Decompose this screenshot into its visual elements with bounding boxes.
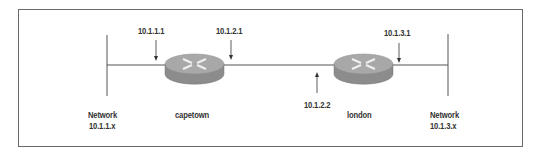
arrow-10-1-3-1-icon [397,43,401,63]
network-right-address: 10.1.3.x [430,121,456,132]
arrow-10-1-2-2-icon [315,72,319,93]
router-capetown-icon [165,54,224,84]
router-london-icon [334,54,393,84]
network-right-title: Network [430,110,459,121]
arrow-10-1-2-1-icon [229,40,233,60]
network-left-address: 10.1.1.x [89,121,115,132]
network-diagram [0,0,542,155]
ip-label-10-1-3-1: 10.1.3.1 [384,28,410,39]
network-left-title: Network [88,110,117,121]
ip-label-10-1-1-1: 10.1.1.1 [138,26,164,37]
arrow-10-1-1-1-icon [154,40,158,61]
ip-label-10-1-2-2: 10.1.2.2 [304,100,330,111]
ip-label-10-1-2-1: 10.1.2.1 [216,26,242,37]
router-label-capetown: capetown [175,110,209,121]
router-label-london: london [347,110,371,121]
